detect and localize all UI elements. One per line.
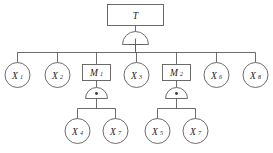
- basic-event-x2-subscript: 2: [60, 74, 63, 80]
- basic-event-x5-label: X: [151, 127, 159, 137]
- basic-event-x4[interactable]: X 4: [65, 119, 90, 144]
- basic-event-x6[interactable]: X 6: [204, 63, 229, 88]
- basic-event-x4-subscript: 4: [80, 130, 83, 136]
- basic-event-x6-label: X: [210, 71, 218, 81]
- and-gate-m2-dot-icon: [175, 92, 178, 95]
- and-gate-m2[interactable]: [166, 88, 188, 99]
- top-event-label: T: [133, 11, 139, 21]
- basic-event-x3-subscript: 3: [138, 74, 142, 80]
- basic-event-x2-label: X: [51, 71, 59, 81]
- intermediate-event-m2[interactable]: M 2: [163, 65, 191, 81]
- basic-event-x3-label: X: [130, 71, 138, 81]
- basic-event-x7a[interactable]: X 7: [103, 119, 128, 144]
- basic-event-x8-label: X: [249, 71, 257, 81]
- basic-event-x5[interactable]: X 5: [145, 119, 170, 144]
- top-event-node[interactable]: T: [108, 5, 164, 26]
- basic-event-x1-subscript: 1: [20, 74, 23, 80]
- basic-event-x1-label: X: [11, 71, 19, 81]
- intermediate-event-m1-label: M: [89, 68, 99, 78]
- basic-event-x2[interactable]: X 2: [45, 63, 70, 88]
- basic-event-x5-subscript: 5: [160, 130, 163, 136]
- basic-event-x4-label: X: [71, 127, 79, 137]
- basic-event-x7b[interactable]: X 7: [183, 119, 208, 144]
- basic-event-x1[interactable]: X 1: [5, 63, 30, 88]
- intermediate-event-m2-label: M: [169, 68, 179, 78]
- and-gate-m1-dot-icon: [95, 92, 98, 95]
- basic-event-x3[interactable]: X 3: [124, 63, 149, 88]
- and-gate-m1[interactable]: [86, 88, 108, 99]
- intermediate-event-m2-subscript: 2: [180, 71, 183, 77]
- basic-event-x8-subscript: 8: [258, 74, 261, 80]
- intermediate-event-m1[interactable]: M 1: [83, 65, 111, 81]
- basic-event-x6-subscript: 6: [219, 74, 222, 80]
- basic-event-x7b-label: X: [189, 127, 197, 137]
- basic-event-x8[interactable]: X 8: [243, 63, 268, 88]
- basic-event-x7a-label: X: [109, 127, 117, 137]
- intermediate-event-m1-subscript: 1: [100, 71, 103, 77]
- fault-tree-diagram: T X 1 X 2: [0, 0, 273, 153]
